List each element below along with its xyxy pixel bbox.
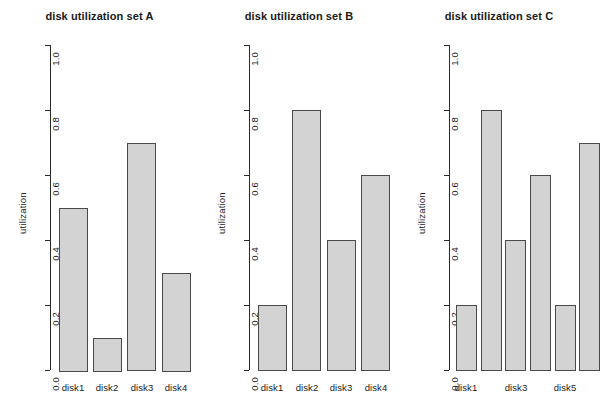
x-axis-tick-label: disk4 [346, 382, 406, 393]
y-axis-tick-label: 1.0 [50, 52, 61, 66]
y-axis-tick [244, 110, 249, 111]
y-axis-tick-label: 0.6 [449, 182, 460, 196]
bar [93, 338, 122, 372]
y-axis-tick [244, 305, 249, 306]
bar [555, 305, 576, 371]
chart-panel-3: disk utilization set C0.00.20.40.60.81.0… [399, 0, 599, 417]
y-axis-label: utilization [416, 192, 427, 234]
bar [162, 273, 191, 372]
bar [530, 175, 551, 371]
y-axis-tick [244, 240, 249, 241]
y-axis-tick [444, 305, 449, 306]
y-axis-tick [45, 370, 50, 371]
panel-title: disk utilization set A [0, 10, 199, 22]
y-axis-tick [444, 240, 449, 241]
bar [505, 240, 526, 371]
bar [292, 110, 321, 371]
y-axis-tick [444, 175, 449, 176]
bar [327, 240, 356, 371]
chart-panel-2: disk utilization set B0.00.20.40.60.81.0… [199, 0, 399, 417]
y-axis-tick [244, 370, 249, 371]
panel-title: disk utilization set B [199, 10, 399, 22]
y-axis-tick [45, 240, 50, 241]
y-axis-tick [45, 175, 50, 176]
y-axis-tick-label: 0.4 [449, 247, 460, 261]
panel-title: disk utilization set C [399, 10, 599, 22]
y-axis-tick-label: 0.8 [50, 117, 61, 131]
y-axis-tick [244, 45, 249, 46]
y-axis-tick-label: 0.6 [249, 182, 260, 196]
chart-panel-1: disk utilization set A0.00.20.40.60.81.0… [0, 0, 199, 417]
x-axis-tick-label: disk4 [146, 382, 206, 393]
bar [361, 175, 390, 371]
y-axis-tick [444, 110, 449, 111]
y-axis-tick-label: 0.6 [50, 182, 61, 196]
y-axis-tick [244, 175, 249, 176]
y-axis-tick-label: 0.8 [249, 117, 260, 131]
y-axis-tick [444, 370, 449, 371]
bar [456, 305, 477, 371]
y-axis-tick-label: 1.0 [249, 52, 260, 66]
y-axis-tick [444, 45, 449, 46]
y-axis-tick [45, 110, 50, 111]
y-axis-tick-label: 0.8 [449, 117, 460, 131]
y-axis-tick [45, 45, 50, 46]
y-axis-tick-label: 0.4 [249, 247, 260, 261]
bar [127, 143, 156, 371]
y-axis-tick-label: 1.0 [449, 52, 460, 66]
y-axis-label: utilization [17, 192, 28, 234]
y-axis-tick [45, 305, 50, 306]
bar [258, 305, 287, 371]
x-axis-tick-label: disk5 [535, 382, 595, 393]
y-axis-label: utilization [216, 192, 227, 234]
bar [59, 208, 88, 372]
bar [481, 110, 502, 371]
bar [579, 143, 600, 371]
